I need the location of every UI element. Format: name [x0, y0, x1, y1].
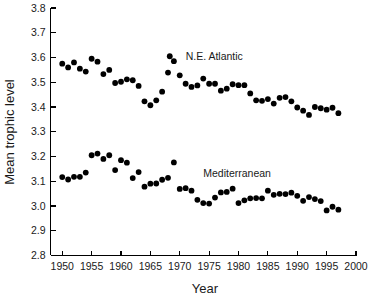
data-point	[206, 201, 212, 207]
scatter-plot-canvas: 2.82.93.03.13.23.33.43.53.63.73.8 195019…	[0, 0, 371, 300]
series-label-mediterranean: Mediterranean	[203, 167, 271, 179]
data-point	[165, 70, 171, 76]
data-point	[89, 152, 95, 158]
data-point	[65, 65, 71, 71]
y-tick-label: 3.6	[31, 51, 46, 63]
data-point	[189, 84, 195, 90]
data-point	[306, 194, 312, 200]
data-point	[59, 174, 65, 180]
data-point	[241, 82, 247, 88]
data-point	[224, 189, 230, 195]
data-point	[283, 191, 289, 197]
series-ne-atlantic-points	[59, 56, 341, 118]
data-point	[241, 197, 247, 203]
y-axis-title: Mean trophic level	[2, 79, 17, 185]
y-tick-label: 3.7	[31, 26, 46, 38]
x-tick-label: 1980	[227, 260, 251, 272]
data-point	[288, 98, 294, 104]
y-tick-label: 2.8	[31, 249, 46, 261]
data-point	[83, 170, 89, 176]
y-tick-label: 3.3	[31, 125, 46, 137]
data-point	[318, 198, 324, 204]
data-point	[171, 160, 177, 166]
x-axis-tick-labels: 1950195519601965197019751980198519901995…	[51, 260, 368, 272]
data-point	[183, 185, 189, 191]
data-point	[206, 81, 212, 87]
data-point	[194, 197, 200, 203]
data-point	[306, 112, 312, 118]
data-point	[259, 98, 265, 104]
x-axis-ticks	[62, 251, 356, 256]
data-point	[236, 82, 242, 88]
data-point	[136, 83, 142, 89]
data-point	[124, 76, 130, 82]
data-point	[200, 200, 206, 206]
data-point	[100, 71, 106, 77]
data-point	[130, 77, 136, 83]
data-point	[118, 157, 124, 163]
data-point	[142, 184, 148, 190]
data-point	[59, 61, 65, 67]
data-point	[324, 107, 330, 113]
data-point	[288, 190, 294, 196]
data-point	[218, 88, 224, 94]
data-point	[65, 177, 71, 183]
data-point	[300, 198, 306, 204]
data-point	[153, 181, 159, 187]
data-point	[224, 86, 230, 92]
data-point	[283, 94, 289, 100]
data-point	[200, 76, 206, 82]
data-point	[218, 189, 224, 195]
data-point	[177, 186, 183, 192]
data-point	[106, 67, 112, 73]
data-point	[194, 83, 200, 89]
x-tick-label: 1990	[286, 260, 310, 272]
y-tick-label: 2.9	[31, 224, 46, 236]
x-axis-title: Year	[192, 281, 219, 296]
data-point	[77, 174, 83, 180]
data-point	[253, 97, 259, 103]
y-tick-label: 3.4	[31, 101, 46, 113]
data-point	[171, 58, 177, 64]
data-point	[136, 169, 142, 175]
data-point	[71, 60, 77, 66]
data-point	[271, 101, 277, 107]
y-tick-label: 3.2	[31, 150, 46, 162]
data-point	[335, 110, 341, 116]
series-label-ne-atlantic: N.E. Atlantic	[186, 50, 243, 62]
data-point	[183, 81, 189, 87]
x-tick-label: 1950	[51, 260, 75, 272]
data-point	[330, 204, 336, 210]
data-point	[212, 195, 218, 201]
data-point	[83, 69, 89, 75]
data-point	[147, 102, 153, 108]
data-point	[277, 191, 283, 197]
data-point	[112, 80, 118, 86]
data-point	[77, 66, 83, 72]
data-point	[71, 174, 77, 180]
data-point	[265, 96, 271, 102]
data-point	[159, 89, 165, 95]
data-point	[106, 152, 112, 158]
y-tick-label: 3.0	[31, 200, 46, 212]
data-point	[294, 105, 300, 111]
data-point	[253, 195, 259, 201]
data-point	[130, 175, 136, 181]
data-point	[300, 108, 306, 114]
x-tick-label: 2000	[344, 260, 368, 272]
data-point	[159, 177, 165, 183]
x-tick-label: 1970	[168, 260, 192, 272]
y-tick-label: 3.5	[31, 76, 46, 88]
data-point	[259, 195, 265, 201]
legend-marker-ne-atlantic	[167, 53, 173, 59]
data-point	[230, 81, 236, 87]
x-tick-label: 1975	[197, 260, 221, 272]
data-point	[271, 192, 277, 198]
data-point	[312, 196, 318, 202]
data-point	[318, 105, 324, 111]
y-tick-label: 3.1	[31, 175, 46, 187]
data-point	[212, 81, 218, 87]
chart-figure: 2.82.93.03.13.23.33.43.53.63.73.8 195019…	[0, 0, 371, 300]
axes	[51, 8, 357, 256]
data-point	[147, 181, 153, 187]
